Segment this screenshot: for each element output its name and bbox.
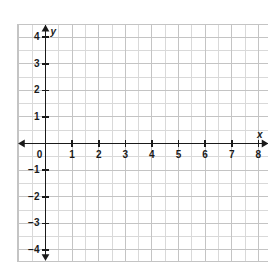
y-tick-label: −3 xyxy=(22,218,40,228)
y-tick-label: 2 xyxy=(22,85,40,95)
y-tick-label: 3 xyxy=(22,59,40,69)
y-tick-label: 1 xyxy=(22,112,40,122)
x-tick-label: 4 xyxy=(145,150,159,160)
y-tick-label: −2 xyxy=(22,192,40,202)
axes xyxy=(18,25,268,261)
x-tick-label: 8 xyxy=(251,150,265,160)
x-axis-label: x xyxy=(257,130,263,140)
x-tick-label: 0 xyxy=(33,150,47,160)
y-axis-label: y xyxy=(51,27,57,37)
y-tick-label: 4 xyxy=(22,32,40,42)
x-tick-label: 5 xyxy=(172,150,186,160)
x-tick-label: 1 xyxy=(65,150,79,160)
x-tick-label: 7 xyxy=(225,150,239,160)
y-tick-label: −1 xyxy=(22,165,40,175)
x-tick-label: 3 xyxy=(118,150,132,160)
coordinate-plane-graph: x y 012345678 4321−1−2−3−4 xyxy=(0,0,268,271)
x-tick-label: 6 xyxy=(198,150,212,160)
y-tick-label: −4 xyxy=(22,245,40,255)
grid-canvas xyxy=(0,0,268,271)
x-tick-label: 2 xyxy=(92,150,106,160)
